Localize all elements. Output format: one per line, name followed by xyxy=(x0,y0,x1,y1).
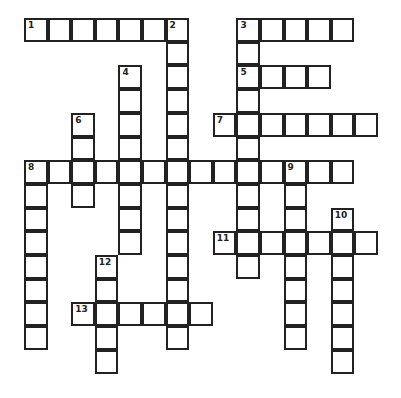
crossword-cell[interactable]: 10 xyxy=(331,208,355,232)
crossword-cell[interactable] xyxy=(284,302,308,326)
crossword-cell[interactable] xyxy=(166,279,190,303)
crossword-cell[interactable] xyxy=(354,231,378,255)
crossword-cell[interactable]: 5 xyxy=(236,65,260,89)
crossword-cell[interactable] xyxy=(166,137,190,161)
crossword-cell[interactable] xyxy=(142,18,166,42)
crossword-cell[interactable] xyxy=(95,279,119,303)
crossword-cell[interactable] xyxy=(236,184,260,208)
crossword-cell[interactable] xyxy=(118,231,142,255)
crossword-cell[interactable] xyxy=(118,208,142,232)
crossword-cell[interactable] xyxy=(331,326,355,350)
crossword-cell[interactable]: 1 xyxy=(24,18,48,42)
crossword-cell[interactable] xyxy=(95,326,119,350)
crossword-cell[interactable] xyxy=(95,350,119,374)
crossword-cell[interactable] xyxy=(118,113,142,137)
crossword-cell[interactable]: 4 xyxy=(118,65,142,89)
crossword-cell[interactable] xyxy=(166,255,190,279)
crossword-cell[interactable]: 3 xyxy=(236,18,260,42)
crossword-cell[interactable] xyxy=(166,302,190,326)
crossword-cell[interactable] xyxy=(236,113,260,137)
crossword-cell[interactable] xyxy=(166,208,190,232)
crossword-cell[interactable] xyxy=(236,42,260,66)
crossword-cell[interactable]: 13 xyxy=(71,302,95,326)
crossword-cell[interactable] xyxy=(284,208,308,232)
crossword-cell[interactable] xyxy=(142,160,166,184)
crossword-cell[interactable] xyxy=(260,160,284,184)
crossword-cell[interactable] xyxy=(284,255,308,279)
crossword-cell[interactable] xyxy=(307,65,331,89)
crossword-cell[interactable] xyxy=(307,18,331,42)
crossword-cell[interactable]: 2 xyxy=(166,18,190,42)
crossword-cell[interactable] xyxy=(284,279,308,303)
crossword-cell[interactable] xyxy=(71,160,95,184)
crossword-cell[interactable] xyxy=(166,89,190,113)
crossword-cell[interactable] xyxy=(236,255,260,279)
crossword-cell[interactable] xyxy=(71,18,95,42)
crossword-cell[interactable] xyxy=(236,160,260,184)
crossword-cell[interactable] xyxy=(24,184,48,208)
crossword-cell[interactable]: 6 xyxy=(71,113,95,137)
crossword-cell[interactable] xyxy=(284,113,308,137)
crossword-cell[interactable] xyxy=(331,255,355,279)
crossword-cell[interactable]: 8 xyxy=(24,160,48,184)
crossword-cell[interactable]: 12 xyxy=(95,255,119,279)
crossword-cell[interactable] xyxy=(284,65,308,89)
crossword-cell[interactable] xyxy=(166,65,190,89)
crossword-cell[interactable] xyxy=(260,113,284,137)
crossword-cell[interactable] xyxy=(284,184,308,208)
crossword-cell[interactable] xyxy=(166,160,190,184)
crossword-cell[interactable] xyxy=(307,231,331,255)
crossword-cell[interactable] xyxy=(331,302,355,326)
crossword-cell[interactable]: 7 xyxy=(213,113,237,137)
crossword-cell[interactable] xyxy=(24,326,48,350)
crossword-cell[interactable] xyxy=(189,302,213,326)
crossword-cell[interactable] xyxy=(331,160,355,184)
crossword-cell[interactable] xyxy=(118,137,142,161)
crossword-cell[interactable] xyxy=(331,113,355,137)
crossword-cell[interactable] xyxy=(331,350,355,374)
crossword-cell[interactable] xyxy=(236,89,260,113)
crossword-cell[interactable]: 11 xyxy=(213,231,237,255)
crossword-cell[interactable] xyxy=(48,18,72,42)
crossword-cell[interactable] xyxy=(24,231,48,255)
crossword-cell[interactable] xyxy=(142,302,166,326)
crossword-cell[interactable] xyxy=(24,279,48,303)
crossword-cell[interactable] xyxy=(71,137,95,161)
crossword-cell[interactable] xyxy=(118,184,142,208)
crossword-cell[interactable] xyxy=(166,231,190,255)
crossword-cell[interactable] xyxy=(118,302,142,326)
crossword-cell[interactable] xyxy=(331,231,355,255)
crossword-cell[interactable] xyxy=(236,137,260,161)
crossword-cell[interactable] xyxy=(166,326,190,350)
crossword-cell[interactable] xyxy=(118,160,142,184)
crossword-cell[interactable] xyxy=(95,160,119,184)
crossword-cell[interactable] xyxy=(189,160,213,184)
crossword-cell[interactable]: 9 xyxy=(284,160,308,184)
crossword-cell[interactable] xyxy=(24,208,48,232)
crossword-cell[interactable] xyxy=(213,160,237,184)
crossword-cell[interactable] xyxy=(48,160,72,184)
crossword-cell[interactable] xyxy=(307,113,331,137)
crossword-cell[interactable] xyxy=(166,184,190,208)
crossword-cell[interactable] xyxy=(236,231,260,255)
crossword-cell[interactable] xyxy=(95,302,119,326)
crossword-cell[interactable] xyxy=(24,255,48,279)
crossword-cell[interactable] xyxy=(24,302,48,326)
crossword-cell[interactable] xyxy=(236,208,260,232)
crossword-cell[interactable] xyxy=(118,89,142,113)
crossword-cell[interactable] xyxy=(260,65,284,89)
crossword-cell[interactable] xyxy=(307,160,331,184)
crossword-cell[interactable] xyxy=(354,113,378,137)
crossword-cell[interactable] xyxy=(284,231,308,255)
crossword-cell[interactable] xyxy=(284,326,308,350)
crossword-cell[interactable] xyxy=(260,231,284,255)
crossword-cell[interactable] xyxy=(260,18,284,42)
crossword-cell[interactable] xyxy=(95,18,119,42)
crossword-cell[interactable] xyxy=(284,18,308,42)
crossword-cell[interactable] xyxy=(166,113,190,137)
crossword-cell[interactable] xyxy=(331,279,355,303)
crossword-cell[interactable] xyxy=(71,184,95,208)
crossword-cell[interactable] xyxy=(118,18,142,42)
crossword-cell[interactable] xyxy=(331,18,355,42)
crossword-cell[interactable] xyxy=(166,42,190,66)
